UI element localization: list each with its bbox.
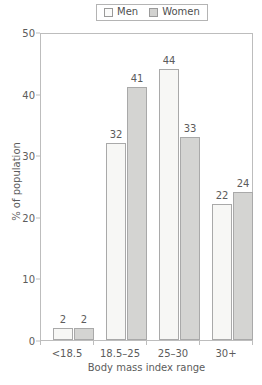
x-tick-mark-1 [93, 341, 94, 345]
bar-group-2: 44 33 [153, 34, 206, 340]
bar-women-0[interactable] [74, 328, 94, 340]
x-axis-title: Body mass index range [40, 362, 253, 373]
x-tick-label-3: 30+ [196, 348, 256, 359]
x-tick-label-2: 25–30 [143, 348, 203, 359]
legend-label-women: Women [162, 7, 200, 17]
y-tick-label-10: 10 [22, 274, 35, 285]
legend-swatch-men-icon [104, 8, 113, 17]
legend-swatch-women-icon [149, 8, 158, 17]
bar-label-women-3: 24 [230, 179, 256, 189]
legend-entry-women: Women [149, 7, 200, 17]
bar-label-women-0: 2 [71, 315, 97, 325]
x-tick-label-1: 18.5–25 [90, 348, 150, 359]
bar-group-3: 22 24 [206, 34, 259, 340]
bar-label-women-1: 41 [124, 74, 150, 84]
x-tick-mark-0 [40, 341, 41, 345]
bar-women-1[interactable] [127, 87, 147, 340]
x-tick-mark-3 [199, 341, 200, 345]
bar-men-0[interactable] [53, 328, 73, 340]
bar-label-women-2: 33 [177, 124, 203, 134]
bar-men-2[interactable] [159, 69, 179, 340]
y-tick-label-30: 30 [22, 151, 35, 162]
bar-women-3[interactable] [233, 192, 253, 340]
bar-women-2[interactable] [180, 137, 200, 340]
x-tick-mark-2 [146, 341, 147, 345]
y-tick-label-50: 50 [22, 28, 35, 39]
chart-legend: Men Women [96, 4, 208, 21]
legend-label-men: Men [117, 7, 138, 17]
plot-area: 2 2 32 41 44 33 22 24 [40, 33, 253, 341]
y-tick-label-20: 20 [22, 212, 35, 223]
x-tick-label-0: <18.5 [37, 348, 97, 359]
legend-entry-men: Men [104, 7, 138, 17]
bar-chart: Men Women 50 40 30 20 10 0 % of populati… [0, 0, 262, 385]
bar-group-1: 32 41 [100, 34, 153, 340]
y-axis-title: % of population [11, 137, 22, 227]
x-tick-mark-4 [252, 341, 253, 345]
bar-men-3[interactable] [212, 204, 232, 340]
bar-label-men-2: 44 [156, 56, 182, 66]
bar-label-men-1: 32 [103, 130, 129, 140]
bar-men-1[interactable] [106, 143, 126, 340]
y-tick-label-0: 0 [29, 336, 35, 347]
bar-group-0: 2 2 [47, 34, 100, 340]
y-tick-label-40: 40 [22, 89, 35, 100]
bar-label-men-3: 22 [209, 191, 235, 201]
